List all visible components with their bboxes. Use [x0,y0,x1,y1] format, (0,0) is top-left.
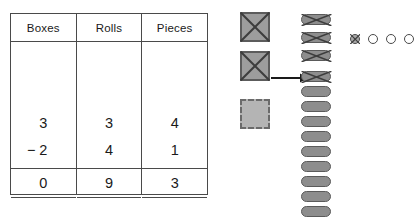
cross-out-icon [301,50,332,62]
roll-remaining [301,101,331,112]
roll-remaining [301,191,331,202]
cross-out-icon [350,34,360,44]
roll-remaining [301,206,331,217]
pieces-group [350,34,414,44]
roll-crossed-out [301,14,331,25]
box-crossed-out [240,51,270,81]
box-regrouped-dashed [240,99,270,129]
roll-remaining [301,131,331,142]
roll-remaining [301,161,331,172]
piece-crossed-out [350,34,360,44]
piece-remaining [386,34,396,44]
roll-crossed-out [301,50,331,61]
boxes-group [240,12,270,129]
cross-out-icon [301,71,332,83]
cross-out-icon [301,14,332,26]
box-crossed-out [240,12,270,42]
roll-remaining [301,146,331,157]
cross-out-icon [240,12,270,42]
roll-remaining [301,86,331,97]
roll-remaining [301,116,331,127]
piece-remaining [404,34,414,44]
roll-crossed-out [301,71,331,82]
roll-remaining [301,176,331,187]
roll-crossed-out [301,32,331,43]
cross-out-icon [240,51,270,81]
cross-out-icon [301,32,332,44]
piece-remaining [368,34,378,44]
rolls-remaining-group [301,71,331,217]
rolls-crossed-top-group [301,14,331,61]
